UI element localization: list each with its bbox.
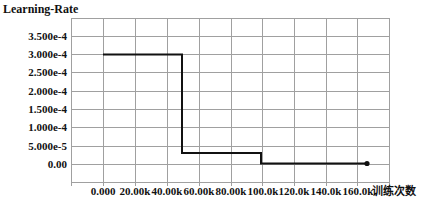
end-point-marker [364, 161, 369, 166]
grid [71, 18, 390, 186]
x-tick-label: 40.00k [152, 185, 183, 197]
x-axis-title: 训练次数 [372, 185, 416, 197]
x-tick-label: 80.00k [216, 185, 247, 197]
x-tick-label: 140.0k [311, 185, 342, 197]
x-tick-label: 20.00k [120, 185, 151, 197]
x-tick-label: 120.0k [279, 185, 310, 197]
x-tick-label: 60.00k [184, 185, 215, 197]
learning-rate-series [103, 55, 370, 167]
x-tick-label: 100.0k [248, 185, 279, 197]
x-tick-label: 0.000 [91, 185, 116, 197]
x-tick-label: 160.0k [343, 185, 374, 197]
plot-area [0, 0, 423, 207]
